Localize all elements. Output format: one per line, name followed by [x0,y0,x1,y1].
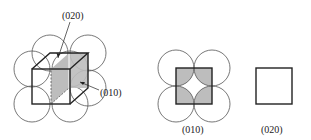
cube-figure: (020) (010) [14,10,122,122]
plane-010-figure: (010) [158,50,230,136]
unit-square-020 [256,68,292,104]
plane-020-shading [69,53,88,88]
crystal-planes-diagram: (020) (010) (010) (020) [0,0,311,140]
caption-020: (020) [261,124,283,136]
caption-010: (010) [182,124,204,136]
label-020-top: (020) [62,10,84,22]
label-010-side: (010) [100,87,122,99]
plane-020-figure: (020) [256,68,292,136]
